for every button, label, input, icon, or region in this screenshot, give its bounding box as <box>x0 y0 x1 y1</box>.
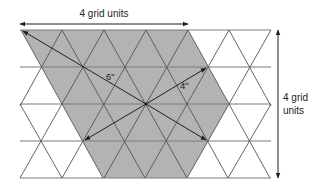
top-dimension-label: 4 grid units <box>80 8 129 19</box>
right-dimension-label-line1: 4 grid <box>283 92 308 103</box>
radius-6-label: 6" <box>106 71 115 82</box>
right-dimension-label-line2: units <box>283 105 304 116</box>
center-point <box>145 103 148 106</box>
triangular-grid-diagram: 6" 4" 4 grid units 4 grid units <box>0 0 321 188</box>
radius-4-label: 4" <box>180 80 189 91</box>
